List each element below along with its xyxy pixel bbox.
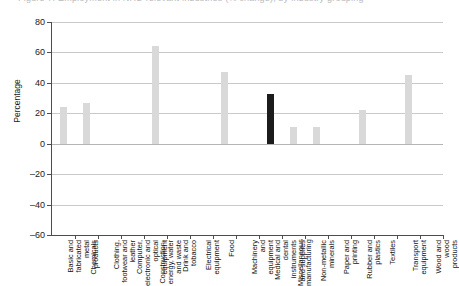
gridline (52, 174, 443, 175)
x-axis-category-label: Wood and wood products (435, 240, 459, 286)
y-axis-tick (47, 174, 52, 175)
zero-line (52, 144, 443, 145)
x-axis-labels: Basic and fabricated metal productsChemi… (52, 240, 443, 286)
bar (267, 94, 274, 144)
x-axis-category-label: Paper and printing (343, 240, 359, 286)
x-axis-category-label: Clothing, footwear and leather (113, 240, 138, 286)
x-axis-tick (98, 235, 99, 239)
x-axis-category-label: Non-metallic minerals (320, 240, 336, 286)
chart-title-clipped: Figure 7: Employment in NHS-relevant ind… (0, 0, 445, 9)
x-axis-category-label: Chemicals (90, 240, 98, 286)
x-axis-category-label: Rubber and plastics (366, 240, 382, 286)
x-axis-category-label: Drink and tobacco (182, 240, 198, 286)
gridline (52, 113, 443, 114)
bar (359, 110, 366, 143)
y-axis-tick (47, 83, 52, 84)
gridline (52, 52, 443, 53)
y-axis-tick (47, 205, 52, 206)
bar (60, 107, 67, 144)
x-axis-tick (190, 235, 191, 239)
x-axis-tick (75, 235, 76, 239)
bar (405, 75, 412, 143)
y-axis-tick-label: 60 (35, 47, 45, 57)
x-axis-tick (328, 235, 329, 239)
x-axis-category-label: Transport equipment (412, 240, 428, 286)
x-axis-category-label: Construction, energy, water and waste (159, 240, 184, 286)
x-axis-line (52, 235, 443, 236)
x-axis-tick (420, 235, 421, 239)
bar (290, 127, 297, 144)
x-axis-tick (397, 235, 398, 239)
x-axis-tick (167, 235, 168, 239)
x-axis-category-label: Textiles (389, 240, 397, 286)
gridline (52, 205, 443, 206)
y-axis-line (51, 22, 52, 235)
y-axis-tick (47, 113, 52, 114)
y-axis-tick (47, 22, 52, 23)
y-axis-tick-label: 40 (35, 78, 45, 88)
x-axis-tick (236, 235, 237, 239)
x-axis-tick (443, 235, 444, 239)
x-axis-tick (259, 235, 260, 239)
x-axis-category-label: Machinery and equipment (251, 240, 276, 286)
y-axis-label: Percentage (12, 68, 22, 134)
x-axis-tick (351, 235, 352, 239)
x-axis-tick (374, 235, 375, 239)
x-axis-tick (213, 235, 214, 239)
x-axis-tick (121, 235, 122, 239)
y-axis-tick-label: –20 (30, 169, 45, 179)
y-axis-tick-label: 80 (35, 17, 45, 27)
bar (152, 46, 159, 143)
bar (83, 103, 90, 144)
bar (221, 72, 228, 144)
y-axis-tick-label: –60 (30, 230, 45, 240)
x-axis-tick (282, 235, 283, 239)
y-axis-tick-label: 20 (35, 108, 45, 118)
y-axis-tick-label: –40 (30, 200, 45, 210)
x-axis-category-label: Food (228, 240, 236, 286)
plot-area: 806040200–20–40–60 (52, 22, 443, 235)
y-axis-tick-label: 0 (40, 139, 45, 149)
x-axis-category-label: Miscellaneous manufacturing (297, 240, 313, 286)
gridline (52, 83, 443, 84)
gridline (52, 22, 443, 23)
bar (313, 127, 320, 144)
x-axis-category-label: Electrical equipment (205, 240, 221, 286)
chart-title-text: Figure 7: Employment in NHS-relevant ind… (18, 0, 364, 3)
x-axis-tick (305, 235, 306, 239)
y-axis-tick (47, 52, 52, 53)
x-axis-tick (144, 235, 145, 239)
